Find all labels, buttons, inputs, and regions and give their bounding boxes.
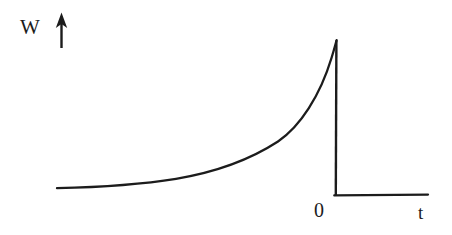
time-axis-baseline: [334, 195, 428, 196]
waveform-figure: [0, 0, 452, 235]
figure-root: W 0 t: [0, 0, 452, 235]
origin-tick-label: 0: [314, 200, 324, 220]
figure-background: [0, 0, 452, 235]
vertical-drop-line: [336, 40, 337, 195]
y-axis-label: W: [20, 17, 40, 38]
x-axis-label: t: [418, 203, 423, 222]
